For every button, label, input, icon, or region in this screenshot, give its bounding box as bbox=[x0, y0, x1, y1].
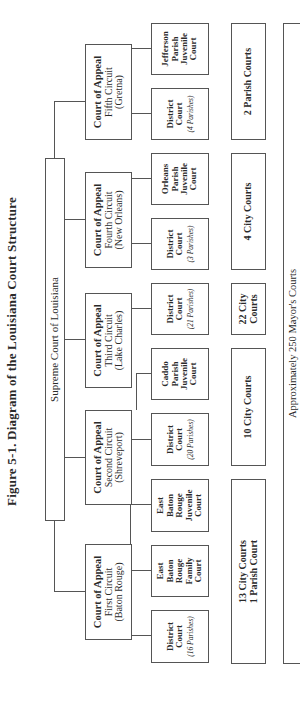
mayors-courts-box: Approximately 250 Mayor's Courts bbox=[283, 23, 300, 664]
district-court-3-parishes: District Court (3 Parishes) bbox=[151, 218, 209, 270]
east-baton-rouge-family-court: East Baton Rouge Family Court bbox=[151, 545, 209, 597]
district-court-21-parishes: District Court (21 Parishes) bbox=[151, 283, 209, 335]
ca-city: (Gretna) bbox=[114, 75, 125, 109]
dc-parishes: (3 Parishes) bbox=[187, 226, 195, 263]
lower-courts-first-circuit: 13 City Courts 1 Parish Court bbox=[231, 479, 266, 664]
connector-second-caddo bbox=[136, 373, 151, 374]
lc-line: 2 Parish Courts bbox=[243, 48, 254, 115]
east-baton-rouge-juvenile-court: East Baton Rouge Juvenile Court bbox=[151, 479, 209, 532]
ca-city: (Baton Rouge) bbox=[114, 562, 125, 621]
lower-courts-second-circuit: 10 City Courts bbox=[231, 348, 266, 466]
ca-label: Court of Appeal bbox=[92, 56, 103, 128]
district-court-16-parishes: District Court (16 Parishes) bbox=[151, 610, 209, 663]
connector-fifth-jefferson bbox=[132, 48, 151, 49]
dc-line: Court bbox=[194, 494, 203, 517]
dc-line: Court bbox=[175, 298, 184, 321]
connector-second-district20 bbox=[132, 439, 151, 440]
dc-parishes: (20 Parishes) bbox=[187, 419, 195, 460]
dc-line: Court bbox=[189, 38, 198, 61]
dc-line: Court bbox=[175, 103, 184, 126]
connector-sc-fifth-h bbox=[54, 102, 55, 158]
court-structure-diagram: Figure 5-1. Diagram of the Louisiana Cou… bbox=[0, 0, 300, 703]
lc-line: 22 City bbox=[238, 294, 249, 325]
connector-sc-fourth bbox=[64, 219, 85, 220]
ca-label: Court of Appeal bbox=[92, 556, 103, 628]
district-court-4-parishes: District Court (4 Parishes) bbox=[151, 88, 209, 140]
lc-line: 10 City Courts bbox=[243, 376, 254, 439]
caddo-parish-juvenile-court: Caddo Parish Juvenile Court bbox=[151, 348, 209, 400]
connector-first-family bbox=[132, 570, 151, 571]
orleans-parish-juvenile-court: Orleans Parish Juvenile Court bbox=[151, 153, 209, 205]
connector-third-district21 bbox=[132, 308, 151, 309]
connector-first-juvenile bbox=[130, 504, 151, 505]
figure-title: Figure 5-1. Diagram of the Louisiana Cou… bbox=[4, 0, 20, 703]
dc-line: Court bbox=[175, 428, 184, 451]
lower-courts-fifth-circuit: 2 Parish Courts bbox=[231, 23, 266, 140]
connector-first-juvenile-v bbox=[130, 505, 131, 544]
ca-city: (Shreveport) bbox=[114, 432, 125, 483]
lc-line: 13 City Courts bbox=[238, 540, 249, 603]
lc-line: Courts bbox=[249, 294, 260, 323]
court-of-appeal-third-circuit: Court of Appeal Third Circuit (Lake Char… bbox=[85, 293, 132, 388]
district-court-20-parishes: District Court (20 Parishes) bbox=[151, 413, 209, 466]
connector-sc-first bbox=[54, 591, 85, 592]
ca-city: (Lake Charles) bbox=[114, 311, 125, 371]
jefferson-parish-juvenile-court: Jefferson Parish Juvenile Court bbox=[151, 23, 209, 75]
court-of-appeal-fifth-circuit: Court of Appeal Fifth Circuit (Gretna) bbox=[85, 44, 132, 140]
dc-parishes: (16 Parishes) bbox=[187, 616, 195, 657]
connector-sc-third bbox=[64, 339, 85, 340]
connector-second-caddo-h bbox=[136, 373, 137, 410]
ca-label: Court of Appeal bbox=[92, 184, 103, 256]
connector-fourth-district3 bbox=[132, 243, 151, 244]
connector-sc-fifth bbox=[54, 101, 85, 102]
connector-sc-first-h bbox=[54, 521, 55, 592]
connector-first-district16 bbox=[132, 635, 151, 636]
court-of-appeal-second-circuit: Court of Appeal Second Circuit (Shrevepo… bbox=[85, 410, 132, 505]
ca-label: Court of Appeal bbox=[92, 304, 103, 376]
connector-fifth-district4 bbox=[132, 113, 151, 114]
ca-city: (New Orleans) bbox=[114, 190, 125, 249]
dc-line: Court bbox=[189, 168, 198, 191]
lower-courts-third-circuit: 22 City Courts bbox=[231, 283, 266, 335]
ca-label: Court of Appeal bbox=[92, 421, 103, 493]
dc-parishes: (4 Parishes) bbox=[187, 96, 195, 133]
lc-line: 1 Parish Court bbox=[249, 540, 260, 603]
dc-parishes: (21 Parishes) bbox=[187, 289, 195, 330]
court-of-appeal-first-circuit: Court of Appeal First Circuit (Baton Rou… bbox=[85, 544, 132, 640]
supreme-court-label: Supreme Court of Louisiana bbox=[49, 277, 61, 402]
connector-fourth-orleans bbox=[132, 178, 151, 179]
connector-sc-second bbox=[64, 457, 85, 458]
supreme-court-box: Supreme Court of Louisiana bbox=[45, 158, 65, 521]
lower-courts-fourth-circuit: 4 City Courts bbox=[231, 153, 266, 270]
mayors-courts-label: Approximately 250 Mayor's Courts bbox=[287, 269, 298, 418]
dc-line: Court bbox=[175, 625, 184, 648]
court-of-appeal-fourth-circuit: Court of Appeal Fourth Circuit (New Orle… bbox=[85, 172, 132, 268]
dc-line: Court bbox=[194, 560, 203, 583]
dc-line: Court bbox=[175, 233, 184, 256]
dc-line: Court bbox=[189, 363, 198, 386]
lc-line: 4 City Courts bbox=[243, 183, 254, 241]
